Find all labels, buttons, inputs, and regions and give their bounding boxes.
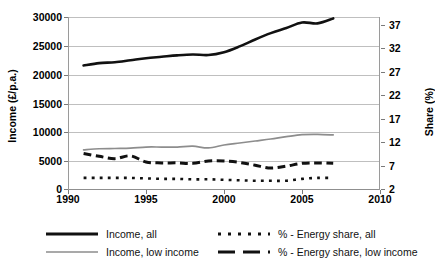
- y-tickmark-right-12: [381, 142, 385, 143]
- y-axis-right-title: Share (%): [423, 72, 435, 152]
- y-tick-right-17: 17: [389, 114, 423, 124]
- y-tickmark-left-5000: [64, 161, 68, 162]
- chart-legend: Income, all Income, low income % - Energ…: [0, 222, 433, 268]
- x-tickmark-1990: [68, 190, 69, 194]
- y-tickmark-right-17: [381, 119, 385, 120]
- x-tickmark-2005: [302, 190, 303, 194]
- x-tick-1995: 1995: [121, 193, 171, 205]
- legend-item-energy-all: % - Energy share, all: [218, 226, 375, 242]
- x-tickmark-1995: [146, 190, 147, 194]
- x-tickmark-2010: [380, 190, 381, 194]
- series-line-3: [84, 153, 334, 168]
- legend-label-income-all: Income, all: [106, 228, 157, 240]
- y-tickmark-right-27: [381, 72, 385, 73]
- y-tickmark-left-10000: [64, 132, 68, 133]
- legend-item-energy-low: % - Energy share, low income: [218, 244, 417, 260]
- y-tick-left-20000: 20000: [14, 70, 62, 80]
- y-tick-left-25000: 25000: [14, 41, 62, 51]
- y-tickmark-right-7: [381, 166, 385, 167]
- legend-label-energy-low: % - Energy share, low income: [278, 246, 417, 258]
- y-tickmark-right-22: [381, 95, 385, 96]
- x-tick-2010: 2010: [355, 193, 405, 205]
- y-tickmark-right-32: [381, 48, 385, 49]
- series-line-2: [84, 178, 334, 181]
- series-layer: [68, 17, 380, 190]
- y-tick-right-37: 37: [389, 20, 423, 30]
- y-tick-right-12: 12: [389, 137, 423, 147]
- y-tickmark-left-25000: [64, 46, 68, 47]
- y-tickmark-left-15000: [64, 104, 68, 105]
- y-tickmark-left-30000: [64, 17, 68, 18]
- y-tick-left-15000: 15000: [14, 99, 62, 109]
- y-tick-right-27: 27: [389, 67, 423, 77]
- series-line-1: [84, 134, 334, 150]
- legend-label-energy-all: % - Energy share, all: [278, 228, 375, 240]
- x-tick-2000: 2000: [199, 193, 249, 205]
- y-tickmark-right-2: [381, 189, 385, 190]
- legend-item-income-all: Income, all: [46, 226, 157, 242]
- solid-thin-gray-line-icon: [46, 246, 98, 258]
- x-tick-1990: 1990: [43, 193, 93, 205]
- legend-label-income-low: Income, low income: [106, 246, 199, 258]
- y-tick-left-5000: 5000: [14, 156, 62, 166]
- x-tick-2005: 2005: [277, 193, 327, 205]
- dotted-black-line-icon: [218, 228, 270, 240]
- y-tick-right-22: 22: [389, 90, 423, 100]
- y-tick-left-30000: 30000: [14, 12, 62, 22]
- dashed-black-line-icon: [218, 246, 270, 258]
- series-line-0: [84, 18, 334, 65]
- y-tickmark-right-37: [381, 25, 385, 26]
- x-tickmark-2000: [224, 190, 225, 194]
- y-tick-left-10000: 10000: [14, 127, 62, 137]
- solid-thick-black-line-icon: [46, 228, 98, 240]
- y-tickmark-left-20000: [64, 75, 68, 76]
- y-tick-right-7: 7: [389, 161, 423, 171]
- legend-item-income-low: Income, low income: [46, 244, 199, 260]
- y-tick-right-32: 32: [389, 43, 423, 53]
